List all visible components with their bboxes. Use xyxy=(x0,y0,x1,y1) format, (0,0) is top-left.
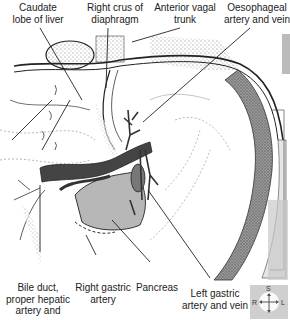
label-line: Right gastric xyxy=(72,282,134,294)
label-line: artery and vein xyxy=(180,300,250,312)
leader-right-gastric xyxy=(86,235,96,255)
caudate-lobe xyxy=(46,41,94,69)
compass-left: L xyxy=(281,299,285,306)
label-line: Pancreas xyxy=(134,282,180,294)
stomach-wall xyxy=(214,70,272,280)
compass-superior: S xyxy=(266,285,271,292)
label-line: artery xyxy=(72,294,134,306)
label-line: proper hepatic xyxy=(6,294,70,306)
label-right-gastric: Right gastric artery xyxy=(72,282,134,305)
anatomical-illustration xyxy=(0,0,290,320)
compass-right: R xyxy=(252,299,257,306)
label-left-gastric: Left gastric artery and vein xyxy=(180,288,250,311)
label-line: artery and xyxy=(6,305,70,317)
right-crus xyxy=(96,36,124,62)
label-pancreas: Pancreas xyxy=(134,282,180,294)
orientation-compass: S R L xyxy=(250,285,288,319)
label-bile-duct: Bile duct, proper hepatic artery and xyxy=(6,282,70,317)
label-line: Bile duct, xyxy=(6,282,70,294)
label-line: Left gastric xyxy=(180,288,250,300)
